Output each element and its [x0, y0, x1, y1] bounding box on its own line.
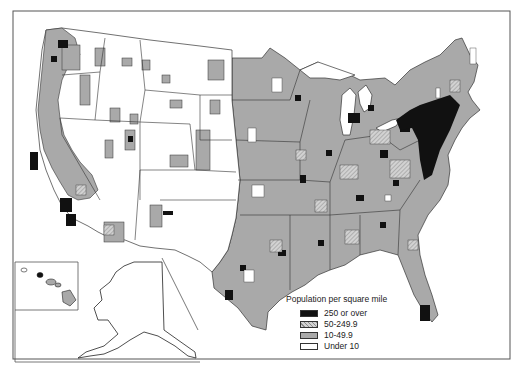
legend-label: 250 or over [324, 308, 367, 318]
legend-title: Population per square mile [286, 294, 387, 304]
legend-swatch-black [300, 310, 318, 317]
legend-item-10-49: 10-49.9 [300, 330, 387, 340]
legend-item-50-249: 50-249.9 [300, 319, 387, 329]
map-legend: Population per square mile 250 or over 5… [300, 294, 387, 352]
legend-swatch-gray [300, 332, 318, 339]
us-population-density-map [0, 0, 523, 371]
legend-label: 50-249.9 [324, 319, 358, 329]
legend-swatch-white [300, 343, 318, 350]
legend-item-250-plus: 250 or over [300, 308, 387, 318]
legend-swatch-hatched [300, 321, 318, 328]
legend-label: Under 10 [324, 341, 359, 351]
legend-item-under-10: Under 10 [300, 341, 387, 351]
legend-label: 10-49.9 [324, 330, 353, 340]
